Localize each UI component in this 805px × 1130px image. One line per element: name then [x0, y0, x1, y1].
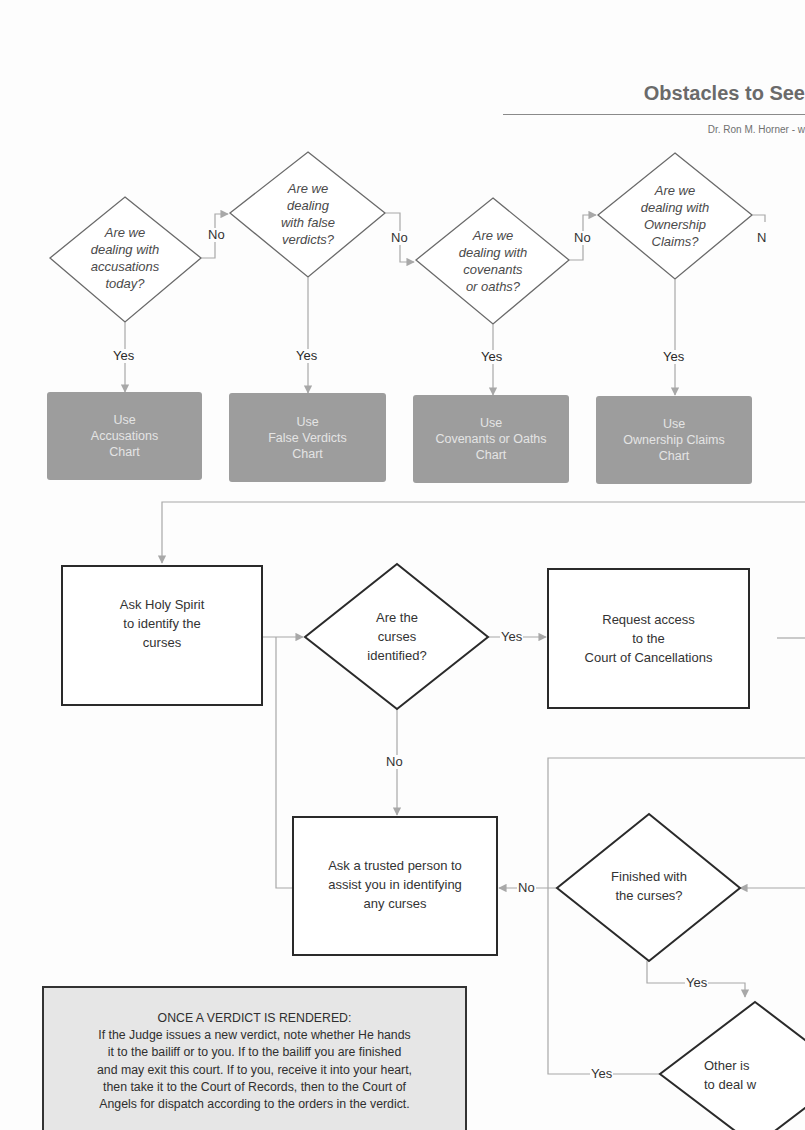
yes-label-3: Yes	[480, 350, 503, 364]
use-ownership-claims-chart-box[interactable]: Use Ownership Claims Chart	[596, 396, 752, 484]
other-issues-text: Other is to deal w	[704, 1055, 805, 1095]
no-label-2: No	[390, 231, 409, 245]
yes-label-4: Yes	[662, 350, 685, 364]
note-heading: ONCE A VERDICT IS RENDERED:	[44, 1010, 465, 1027]
decision-false-verdicts-text: Are we dealing with false verdicts?	[243, 171, 373, 257]
decision-covenants-text: Are we dealing with covenants or oaths?	[428, 218, 558, 304]
note-body: If the Judge issues a new verdict, note …	[44, 1027, 465, 1113]
no-label-4: N	[756, 231, 767, 245]
curses-identified-no-label: No	[385, 755, 404, 769]
flowchart-canvas: Obstacles to See Dr. Ron M. Horner - w A…	[0, 0, 805, 1130]
request-access-court-cancellations-box: Request access to the Court of Cancellat…	[547, 568, 750, 709]
other-issues-yes-label: Yes	[590, 1067, 613, 1081]
yes-label-2: Yes	[295, 349, 318, 363]
title-divider	[503, 114, 805, 115]
curses-identified-text: Are the curses identified?	[337, 600, 457, 672]
use-covenants-oaths-chart-box[interactable]: Use Covenants or Oaths Chart	[413, 395, 569, 483]
use-false-verdicts-chart-box[interactable]: Use False Verdicts Chart	[229, 393, 386, 482]
ask-trusted-person-box: Ask a trusted person to assist you in id…	[292, 816, 498, 956]
finished-no-label: No	[517, 881, 536, 895]
use-accusations-chart-box[interactable]: Use Accusations Chart	[47, 392, 202, 480]
author-subtitle: Dr. Ron M. Horner - w	[500, 124, 805, 135]
verdict-rendered-note: ONCE A VERDICT IS RENDERED: If the Judge…	[42, 986, 467, 1130]
page-title: Obstacles to See	[500, 82, 805, 105]
finished-yes-label: Yes	[685, 976, 708, 990]
finished-curses-text: Finished with the curses?	[589, 864, 709, 908]
decision-ownership-text: Are we dealing with Ownership Claims?	[610, 173, 740, 259]
decision-accusations-text: Are we dealing with accusations today?	[60, 215, 190, 301]
no-label-3: No	[573, 231, 592, 245]
yes-label-1: Yes	[112, 349, 135, 363]
ask-holy-spirit-box: Ask Holy Spirit to identify the curses	[61, 565, 263, 706]
curses-identified-yes-label: Yes	[500, 630, 523, 644]
no-label-1: No	[207, 228, 226, 242]
